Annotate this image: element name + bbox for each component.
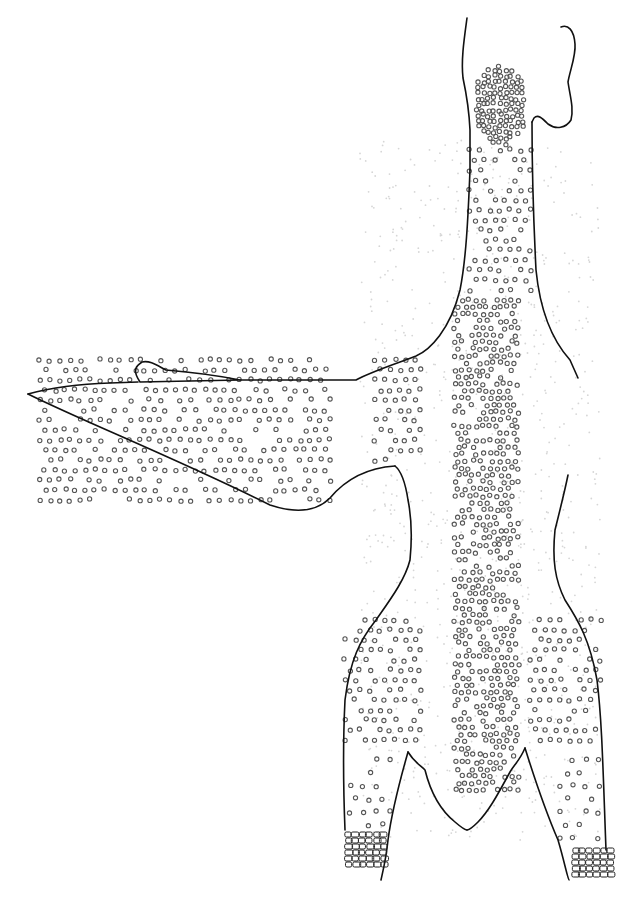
feather-tract-dots xyxy=(37,64,604,841)
spinal-tract xyxy=(452,297,522,793)
humeral-tract xyxy=(372,357,423,463)
neck-left-outline xyxy=(240,170,470,380)
wing-trailing-edge-outline xyxy=(28,394,395,510)
femoral-tract-left xyxy=(342,617,423,742)
cervical-tract xyxy=(467,147,533,293)
right-leg-inner-outline xyxy=(525,748,569,880)
crural-tract-left xyxy=(347,757,392,828)
neck-right-outline xyxy=(532,122,578,378)
head-right-outline xyxy=(532,26,575,127)
femoral-tract-right xyxy=(528,617,604,743)
bird-skin-illustration xyxy=(0,0,633,900)
right-tarsus-scales xyxy=(572,848,615,877)
alar-tract xyxy=(37,357,333,504)
crural-tract-right xyxy=(558,757,602,841)
pterylosis-figure xyxy=(0,0,633,900)
tail-left-outline xyxy=(408,752,467,830)
capital-tract xyxy=(474,64,525,147)
left-tarsus-scales xyxy=(345,832,389,867)
